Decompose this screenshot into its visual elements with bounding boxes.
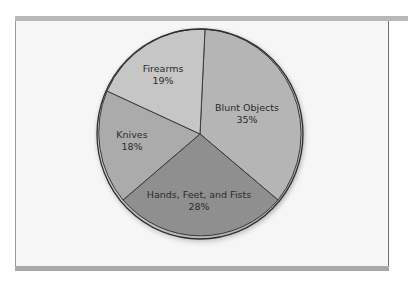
label-hands-name: Hands, Feet, and Fists (147, 189, 251, 200)
label-firearms-name: Firearms (143, 63, 184, 74)
label-hands-pct: 28% (188, 201, 209, 212)
label-blunt-objects-pct: 35% (236, 114, 257, 125)
label-firearms-pct: 19% (152, 75, 173, 86)
label-knives-pct: 18% (121, 141, 142, 152)
label-blunt-objects-name: Blunt Objects (215, 102, 279, 113)
pie-chart: Firearms 19% Blunt Objects 35% Knives 18… (0, 0, 408, 283)
label-knives-name: Knives (116, 129, 147, 140)
